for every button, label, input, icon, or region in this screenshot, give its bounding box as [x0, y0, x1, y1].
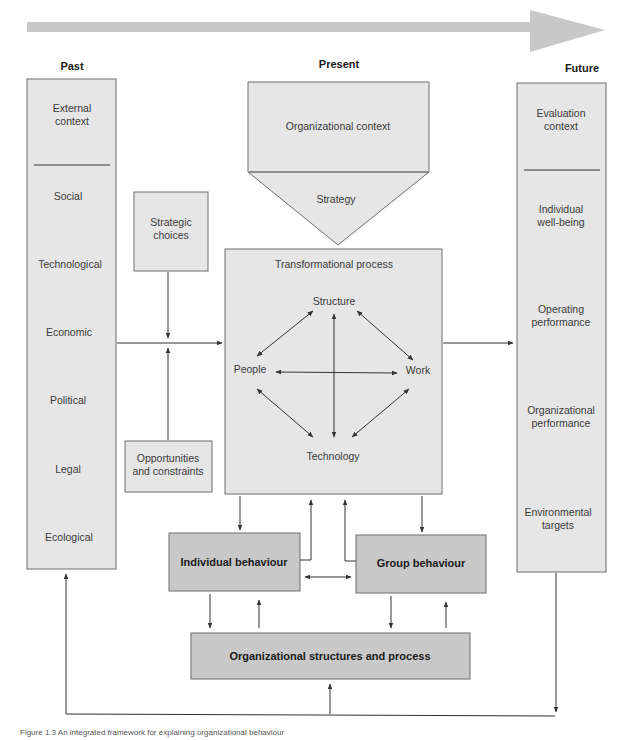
organizational-context-shape — [248, 82, 429, 245]
external-context-line1: External — [53, 102, 92, 114]
past-item-political: Political — [50, 394, 86, 406]
strategic-choices-line2: choices — [153, 229, 189, 241]
past-header: Past — [60, 60, 84, 72]
structure-label: Structure — [313, 295, 356, 307]
evaluation-context-line2: context — [544, 120, 578, 132]
work-label: Work — [406, 364, 431, 376]
future-item-individual-line2: well-being — [536, 216, 584, 228]
individual-to-process-arrow-icon — [300, 500, 311, 560]
evaluation-context-line1: Evaluation — [536, 107, 585, 119]
opportunities-line1: Opportunities — [137, 452, 199, 464]
future-item-organizational-line1: Organizational — [527, 404, 595, 416]
opportunities-line2: and constraints — [132, 465, 203, 477]
technology-label: Technology — [306, 450, 360, 462]
transformational-process-title: Transformational process — [275, 258, 393, 270]
past-item-social: Social — [54, 190, 83, 202]
people-label: People — [234, 363, 267, 375]
past-item-ecological: Ecological — [45, 531, 93, 543]
past-column-box — [27, 79, 116, 569]
external-context-line2: context — [55, 115, 89, 127]
future-item-individual-line1: Individual — [539, 203, 583, 215]
future-item-environmental-line1: Environmental — [524, 506, 591, 518]
future-item-operating-line2: performance — [532, 316, 591, 328]
future-item-operating-line1: Operating — [538, 303, 584, 315]
present-header: Present — [319, 58, 360, 70]
future-item-environmental-line2: targets — [542, 519, 574, 531]
figure-caption: Figure 1.3 An integrated framework for e… — [20, 728, 284, 737]
organizational-context-label: Organizational context — [286, 120, 391, 132]
individual-behaviour-label: Individual behaviour — [181, 556, 289, 568]
past-item-legal: Legal — [55, 463, 81, 475]
past-item-economic: Economic — [46, 326, 92, 338]
framework-diagram: Past Present Future External context Soc… — [0, 0, 628, 740]
strategy-label: Strategy — [316, 193, 356, 205]
future-item-organizational-line2: performance — [532, 417, 591, 429]
group-behaviour-label: Group behaviour — [377, 557, 466, 569]
group-to-process-arrow-icon — [345, 500, 356, 561]
strategic-choices-line1: Strategic — [150, 216, 191, 228]
future-header: Future — [565, 62, 599, 74]
org-structures-label: Organizational structures and process — [229, 650, 430, 662]
timeline-arrow-icon — [27, 10, 605, 52]
past-item-technological: Technological — [38, 258, 102, 270]
